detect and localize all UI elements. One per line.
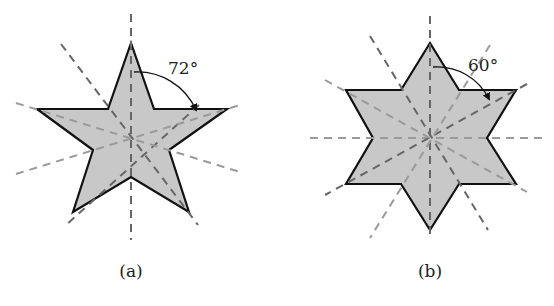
figure-b: 60° (b)	[310, 16, 545, 281]
caption-a: (a)	[119, 261, 142, 281]
figure-a: 72° (a)	[16, 14, 240, 281]
angle-label-a: 72°	[168, 58, 198, 78]
diagram-canvas: 72° (a) 60° (b)	[0, 0, 554, 306]
angle-label-b: 60°	[468, 55, 498, 75]
caption-b: (b)	[418, 261, 442, 281]
